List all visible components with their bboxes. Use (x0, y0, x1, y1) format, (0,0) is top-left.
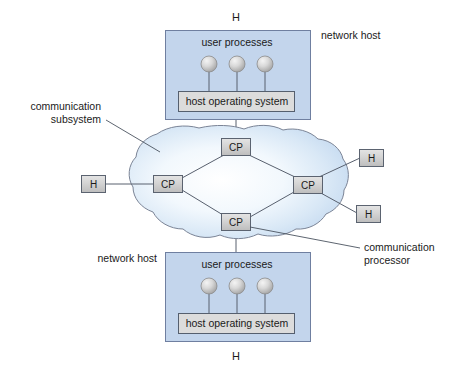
bottom-host-user-processes-label: user processes (201, 258, 272, 270)
comm-processor-label-line2: processor (364, 254, 411, 266)
h-right-upper-label: H (368, 153, 375, 164)
bottom-host-process-circle-2[interactable] (229, 278, 245, 294)
network-diagram: H user processes network host host opera… (0, 0, 462, 376)
top-host-process-circle-2[interactable] (229, 56, 245, 72)
cp-node-right[interactable]: CP (294, 177, 323, 194)
cp-left-label: CP (161, 179, 175, 190)
cp-top-label: CP (229, 142, 243, 153)
cp-bottom-label: CP (229, 217, 243, 228)
top-host-process-circle-3[interactable] (257, 56, 273, 72)
cp-node-top[interactable]: CP (222, 139, 251, 156)
diagram-canvas: H user processes network host host opera… (0, 0, 462, 376)
top-host-side-label: network host (321, 29, 381, 41)
bottom-host-h-label: H (232, 350, 240, 362)
cp-node-bottom[interactable]: CP (222, 214, 251, 231)
top-host-user-processes-label: user processes (201, 36, 272, 48)
top-network-host[interactable]: H user processes network host host opera… (166, 11, 381, 120)
h-right-lower-label: H (365, 209, 372, 220)
bottom-host-side-label: network host (97, 252, 157, 264)
bottom-host-process-circle-1[interactable] (201, 278, 217, 294)
edge-host-right-lower[interactable]: H (357, 206, 381, 223)
top-host-process-circle-1[interactable] (201, 56, 217, 72)
comm-processor-label-line1: communication (364, 241, 435, 253)
comm-subsystem-label-line2: subsystem (51, 113, 101, 125)
h-left-label: H (90, 179, 97, 190)
bottom-host-process-circle-3[interactable] (257, 278, 273, 294)
cp-right-label: CP (301, 180, 315, 191)
top-host-os-label: host operating system (186, 95, 289, 107)
bottom-host-os-label: host operating system (186, 317, 289, 329)
comm-processor-leader-line (250, 227, 360, 248)
annotation-communication-subsystem: communication subsystem (30, 100, 160, 152)
edge-host-right-upper[interactable]: H (360, 150, 384, 167)
top-host-h-label: H (232, 11, 240, 23)
cp-node-left[interactable]: CP (154, 176, 183, 193)
comm-subsystem-label-line1: communication (30, 100, 101, 112)
bottom-network-host[interactable]: H user processes network host host opera… (97, 252, 310, 362)
edge-host-left[interactable]: H (82, 176, 106, 193)
